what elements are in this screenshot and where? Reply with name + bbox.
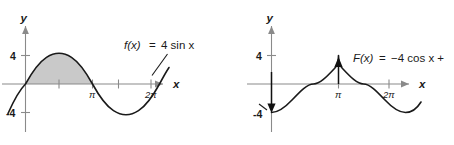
- y-tick-label-4: 4: [256, 50, 262, 62]
- x-tick-label-2pi: 2π: [382, 89, 395, 100]
- antiderivative-plot: y x 4 -4 π 2π F(x) = −4 cos x +: [227, 0, 454, 145]
- x-tick-label-2pi: 2π: [144, 89, 157, 100]
- y-tick-label-neg4: -4: [6, 107, 15, 119]
- equation-equals-sign: =: [379, 52, 386, 64]
- x-axis-arrowhead: [401, 81, 409, 88]
- arrow-up-at-pi-head: [334, 57, 342, 67]
- y-axis-arrowhead: [268, 26, 275, 34]
- y-axis-label: y: [266, 12, 274, 24]
- y-axis-label: y: [20, 12, 28, 24]
- x-tick-label-pi: π: [89, 89, 96, 100]
- y-tick-label-4: 4: [10, 50, 16, 62]
- equation-function-name: f(x): [124, 39, 141, 51]
- x-tick-label-pi: π: [335, 89, 342, 100]
- x-axis-label: x: [418, 78, 426, 90]
- x-axis-label: x: [172, 78, 180, 90]
- sine-function-plot: y x 4 -4 π 2π f(x) = 4 sin x: [0, 0, 227, 145]
- equation-equals-sign: =: [149, 39, 156, 51]
- equation-function-name: F(x): [353, 52, 374, 64]
- math-figure: y x 4 -4 π 2π f(x) = 4 sin x: [0, 0, 454, 145]
- equation-right-hand-side: 4 sin x: [161, 39, 194, 51]
- equation-right-hand-side: −4 cos x +: [391, 52, 444, 64]
- y-axis-arrowhead: [22, 26, 29, 34]
- y-tick-label-neg4: -4: [253, 108, 262, 120]
